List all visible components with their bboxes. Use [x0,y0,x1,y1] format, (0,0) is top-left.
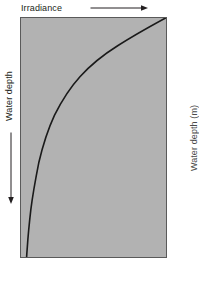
irradiance-decay-curve [21,18,166,257]
plot-panel [20,17,167,258]
arrow-down-icon [4,132,18,204]
x-axis-label: Irradiance [21,1,62,15]
y-axis-label: Water depth [2,56,16,136]
adjacent-figure-edge-label: Water depth (m) [181,96,199,180]
irradiance-depth-figure: Irradiance Water depth Water depth (m) [0,0,199,294]
arrow-right-icon [90,1,148,15]
edge-label-text: Water depth (m) [187,96,199,180]
